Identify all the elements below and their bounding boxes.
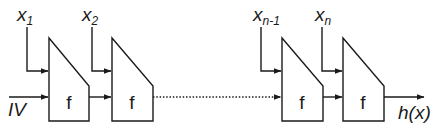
block-1-label: f — [66, 92, 72, 113]
block-3-label: f — [299, 92, 305, 113]
compression-block-2: f — [112, 38, 153, 121]
input-label-x2: x2 — [81, 4, 99, 28]
output-label: h(x) — [398, 102, 431, 123]
block-2-label: f — [129, 92, 135, 113]
compression-block-4: f — [343, 38, 384, 121]
input-arrow-x1 — [27, 27, 48, 71]
hash-chain-diagram: f f f f x1 x2 xn-1 xn IV h(x) — [0, 0, 440, 132]
input-arrow-x2 — [92, 27, 111, 71]
iv-label: IV — [8, 99, 28, 120]
input-label-xn-1: xn-1 — [252, 4, 280, 28]
compression-block-3: f — [282, 38, 323, 121]
input-arrow-xn — [322, 27, 342, 71]
input-label-x1: x1 — [16, 4, 33, 28]
compression-block-1: f — [49, 38, 89, 121]
input-arrow-xn-1 — [261, 27, 281, 71]
block-4-label: f — [360, 92, 366, 113]
input-label-xn: xn — [314, 4, 332, 28]
